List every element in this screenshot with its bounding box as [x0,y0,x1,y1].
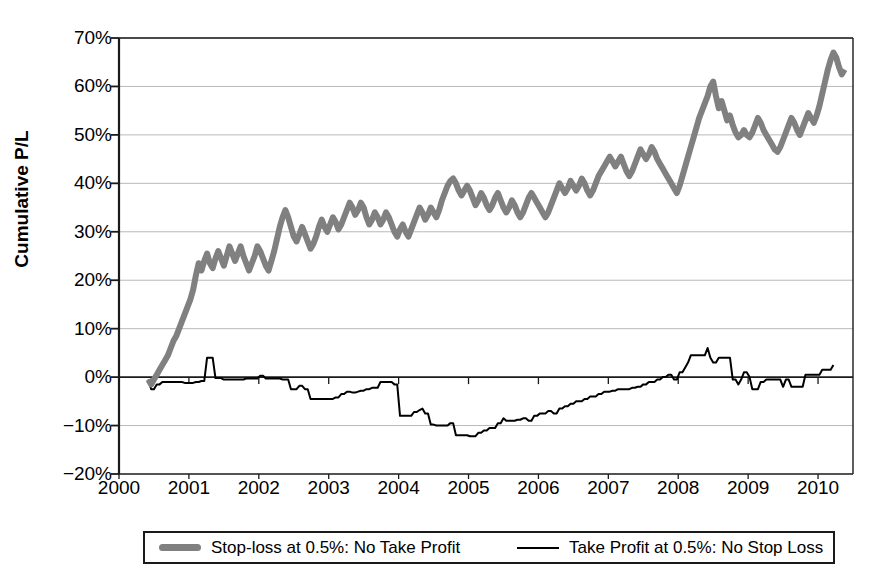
legend-entry-take-profit[interactable]: Take Profit at 0.5%: No Stop Loss [517,533,823,562]
legend-swatch-stop-loss [159,544,201,551]
legend-entry-stop-loss[interactable]: Stop-loss at 0.5%: No Take Profit [159,533,460,562]
series-line [148,348,833,436]
legend-label-take-profit: Take Profit at 0.5%: No Stop Loss [569,539,823,556]
chart-figure: Cumulative P/L 70%60%50%40%30%20%10%0%−1… [0,0,877,585]
plot-area [0,0,877,585]
chart-legend: Stop-loss at 0.5%: No Take Profit Take P… [143,531,835,564]
legend-label-stop-loss: Stop-loss at 0.5%: No Take Profit [211,539,460,556]
series-line [148,53,844,385]
legend-swatch-take-profit [517,547,559,549]
